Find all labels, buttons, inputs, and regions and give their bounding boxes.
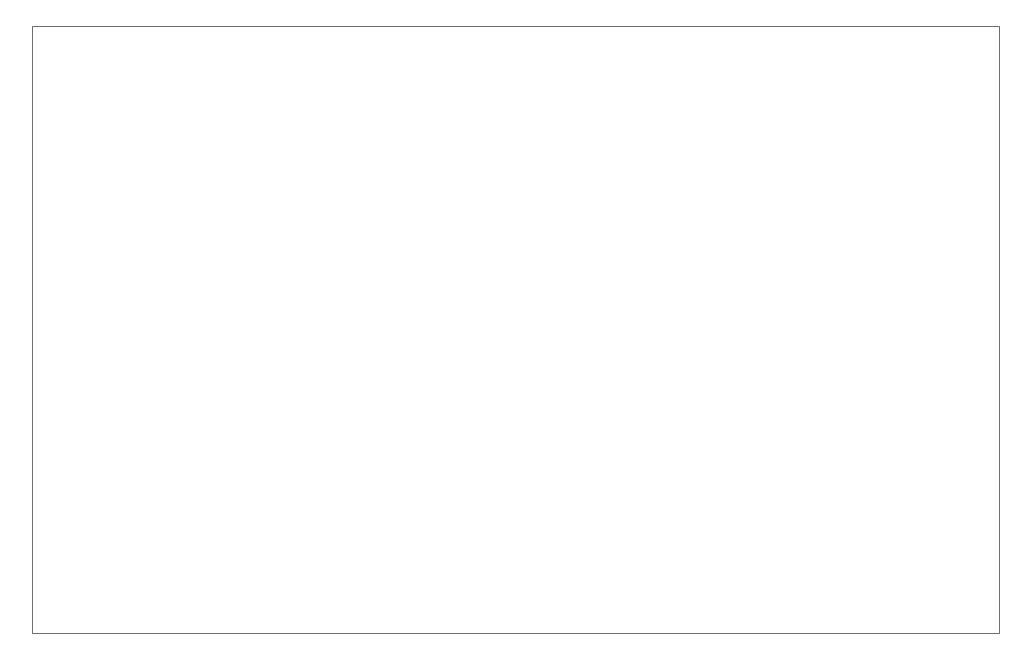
chart-figure: 20,00040,00060,00080,000100,000120,000 1…: [0, 0, 1032, 663]
figure-border: [32, 26, 1000, 634]
